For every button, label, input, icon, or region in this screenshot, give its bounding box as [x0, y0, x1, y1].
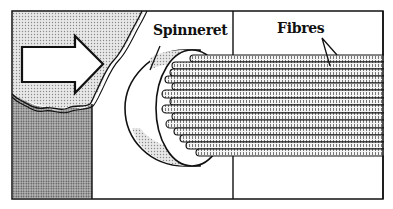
frame-mask [384, 0, 393, 209]
spinneret-label: Spinneret [153, 22, 228, 38]
fibres [162, 55, 390, 156]
fibres-label: Fibres [277, 20, 324, 36]
